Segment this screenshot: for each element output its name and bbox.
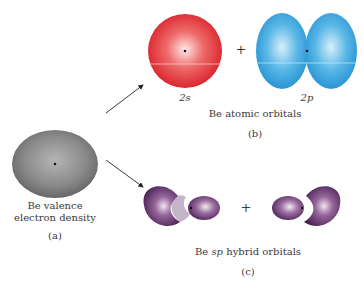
panel-c-tag: (c) — [233, 266, 263, 277]
arrow-to-hybrid-orbitals — [106, 160, 143, 187]
plus-sign-atomic: + — [234, 42, 248, 57]
orbital-2s-label: 2s — [175, 92, 195, 103]
valence-caption-line1: Be valence — [15, 200, 95, 211]
valence-caption-line2: electron density — [10, 212, 100, 223]
atomic-orbitals-caption: Be atomic orbitals — [200, 108, 310, 119]
sp-hybrid-orbital-left — [144, 186, 220, 226]
plus-sign-hybrid: + — [239, 200, 253, 215]
orbital-2p-label: 2p — [297, 92, 317, 103]
orbital-2s-sphere — [148, 14, 222, 88]
valence-density-ellipse — [12, 130, 98, 198]
orbital-2p-lobes — [256, 13, 357, 89]
panel-b-tag: (b) — [240, 128, 270, 139]
arrow-to-atomic-orbitals — [106, 85, 143, 113]
sp-hybrid-orbital-right — [272, 186, 340, 226]
hybrid-orbitals-caption: Be sp hybrid orbitals — [188, 246, 308, 257]
orbital-diagram — [0, 0, 364, 288]
panel-a-tag: (a) — [40, 230, 70, 241]
